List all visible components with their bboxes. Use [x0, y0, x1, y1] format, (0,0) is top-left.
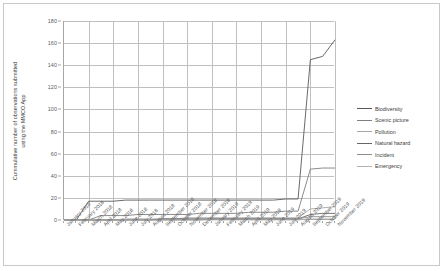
- legend-item-label: Emergency: [375, 163, 402, 169]
- chart-legend: BiodiversityScenic picturePollutionNatur…: [357, 103, 439, 172]
- x-axis-tick-mark: [199, 221, 200, 223]
- y-axis-tick-label: 20: [51, 195, 57, 201]
- series-lines: [64, 21, 335, 220]
- y-axis-tick-mark: [58, 153, 61, 154]
- y-axis-tick-mark: [58, 175, 61, 176]
- legend-line-swatch: [357, 143, 372, 144]
- y-axis-tick-label: 100: [48, 106, 57, 112]
- plot-area: [63, 21, 334, 220]
- x-axis-tick-mark: [285, 221, 286, 223]
- y-axis-tick-label: 120: [48, 84, 57, 90]
- x-axis-tick-mark: [88, 221, 89, 223]
- gridline-vertical: [335, 21, 336, 219]
- y-axis-tick-label: 60: [51, 151, 57, 157]
- y-axis-tick-label: 40: [51, 173, 57, 179]
- x-axis-tick-mark: [211, 221, 212, 223]
- y-axis-tick-label: 0: [54, 217, 57, 223]
- legend-item-label: Scenic picture: [375, 117, 409, 123]
- y-axis-tick-label: 140: [48, 62, 57, 68]
- legend-item[interactable]: Biodiversity: [357, 103, 439, 115]
- y-axis-tick-mark: [58, 21, 61, 22]
- legend-line-swatch: [357, 154, 372, 155]
- y-axis-tick-mark: [58, 220, 61, 221]
- legend-item[interactable]: Emergency: [357, 161, 439, 173]
- legend-item[interactable]: Natural hazard: [357, 138, 439, 150]
- x-axis-tick-labels: January 2018February 2018March 2018April…: [63, 221, 334, 271]
- x-axis-tick-mark: [125, 221, 126, 223]
- y-axis-tick-labels: 020406080100120140160180: [4, 21, 61, 220]
- chart-container: Cummulative number of observations submi…: [3, 3, 440, 266]
- y-axis-tick-mark: [58, 87, 61, 88]
- legend-line-swatch: [357, 131, 372, 132]
- y-axis-tick-label: 180: [48, 18, 57, 24]
- y-axis-tick-mark: [58, 43, 61, 44]
- legend-item[interactable]: Incident: [357, 149, 439, 161]
- y-axis-tick-label: 80: [51, 129, 57, 135]
- legend-line-swatch: [357, 108, 372, 109]
- legend-item-label: Pollution: [375, 129, 396, 135]
- x-axis-tick-mark: [162, 221, 163, 223]
- legend-item[interactable]: Pollution: [357, 126, 439, 138]
- y-axis-tick-mark: [58, 197, 61, 198]
- series-line: [64, 40, 335, 220]
- y-axis-tick-mark: [58, 65, 61, 66]
- legend-item[interactable]: Scenic picture: [357, 115, 439, 127]
- legend-line-swatch: [357, 166, 372, 167]
- y-axis-tick-mark: [58, 109, 61, 110]
- x-axis-tick-mark: [322, 221, 323, 223]
- legend-item-label: Natural hazard: [375, 140, 410, 146]
- y-axis-tick-mark: [58, 131, 61, 132]
- y-axis-tick-label: 160: [48, 40, 57, 46]
- legend-item-label: Incident: [375, 152, 394, 158]
- legend-line-swatch: [357, 120, 372, 121]
- legend-item-label: Biodiversity: [375, 106, 403, 112]
- x-axis-tick-mark: [248, 221, 249, 223]
